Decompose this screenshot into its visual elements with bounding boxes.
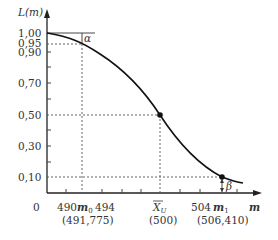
y-tick-0-30: 0,30 (18, 140, 41, 152)
y-axis-label: L(m) (17, 6, 43, 18)
x-tick-490: 490 (57, 201, 77, 213)
oc-curve-chart: L(m) 1,00 0,95 0,90 0,70 0,50 0,30 0,10 … (0, 0, 278, 240)
m1-value: (506,410) (197, 214, 249, 226)
y-tick-0-90: 0,90 (18, 46, 41, 58)
m1-label: m1 (213, 201, 229, 215)
beta-arrow-down-icon (220, 188, 224, 192)
y-axis-arrow-icon (44, 9, 50, 18)
m0-value: (491,775) (62, 214, 114, 226)
x-axis-arrow-icon (253, 190, 262, 196)
guide-lines (47, 44, 222, 193)
x-axis-label: m (249, 201, 260, 213)
point-xu (157, 112, 163, 118)
xu-label: XU (152, 201, 167, 215)
xu-value: (500) (149, 214, 177, 226)
x-tick-494: 494 (95, 201, 115, 213)
origin-label: 0 (33, 201, 40, 213)
oc-curve (47, 33, 243, 183)
alpha-label: α (84, 32, 91, 44)
y-tick-0-70: 0,70 (18, 77, 41, 89)
m0-label: m0 (77, 201, 93, 215)
beta-arrow-up-icon (220, 179, 224, 183)
x-tick-504: 504 (191, 201, 211, 213)
beta-label: β (225, 180, 232, 192)
y-tick-0-10: 0,10 (18, 171, 41, 183)
point-m1 (219, 174, 225, 180)
y-tick-0-50: 0,50 (18, 109, 41, 121)
